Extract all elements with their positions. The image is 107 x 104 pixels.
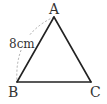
vertex-b-label: B xyxy=(8,84,18,100)
triangle-diagram: 8cm A B C xyxy=(0,0,107,104)
vertex-a-label: A xyxy=(48,1,60,17)
vertex-c-label: C xyxy=(90,84,101,100)
side-ca xyxy=(54,17,91,82)
side-ab-length-label: 8cm xyxy=(9,37,35,51)
